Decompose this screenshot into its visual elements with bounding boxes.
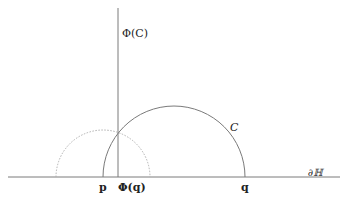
- label-boundary: ∂ℍ: [308, 167, 324, 178]
- label-phi-c: Φ(C): [122, 27, 148, 40]
- label-phi-q: Φ(q): [118, 181, 146, 194]
- label-p: p: [99, 181, 107, 194]
- hyperbolic-diagram: Φ(C) C ∂ℍ p Φ(q) q: [0, 0, 345, 199]
- geodesic-c: [103, 106, 245, 177]
- label-c: C: [230, 121, 239, 134]
- label-q: q: [241, 181, 249, 194]
